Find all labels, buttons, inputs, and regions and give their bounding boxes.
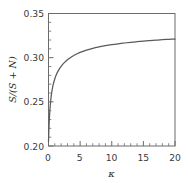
- x-axis-tick-labels: 0 5 10 15 20: [45, 152, 181, 163]
- y-tick-label: 0.30: [24, 52, 45, 63]
- y-axis-label: S/(S + N): [7, 56, 18, 103]
- x-tick-label: 20: [169, 152, 181, 163]
- y-tick-label: 0.25: [24, 96, 45, 107]
- chart-figure: 0.35 0.30 0.25 0.20 0 5 10 15 20 κ S/(S …: [0, 0, 188, 183]
- x-tick-label: 0: [45, 152, 51, 163]
- data-series-line: [49, 39, 176, 142]
- y-axis-tick-labels: 0.35 0.30 0.25 0.20: [24, 8, 45, 152]
- x-axis-label: κ: [107, 168, 115, 179]
- plot-frame: [49, 14, 176, 147]
- x-tick-label: 15: [137, 152, 149, 163]
- x-tick-label: 5: [77, 152, 83, 163]
- y-tick-label: 0.20: [24, 141, 45, 152]
- y-tick-label: 0.35: [24, 8, 45, 19]
- axis-ticks: [49, 14, 176, 147]
- x-tick-label: 10: [106, 152, 118, 163]
- chart-svg: 0.35 0.30 0.25 0.20 0 5 10 15 20 κ S/(S …: [0, 0, 188, 183]
